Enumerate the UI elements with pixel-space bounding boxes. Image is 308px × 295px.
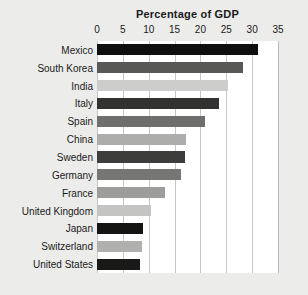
y-tick-label-india: India bbox=[71, 80, 93, 91]
y-tick-label-united-states: United States bbox=[33, 259, 93, 270]
bar-germany bbox=[97, 169, 181, 180]
y-tick-label-japan: Japan bbox=[66, 223, 93, 234]
y-tick-label-south-korea: South Korea bbox=[37, 62, 93, 73]
bar-row bbox=[97, 98, 278, 109]
y-tick-label-france: France bbox=[62, 187, 93, 198]
bar-row bbox=[97, 80, 278, 91]
bar-row bbox=[97, 223, 278, 234]
y-tick-label-germany: Germany bbox=[52, 169, 93, 180]
bar-india bbox=[97, 80, 228, 91]
bar-row bbox=[97, 241, 278, 252]
x-tick-label-20: 20 bbox=[195, 24, 206, 35]
y-tick-label-spain: Spain bbox=[67, 116, 93, 127]
bar-switzerland bbox=[97, 241, 142, 252]
bar-united-states bbox=[97, 259, 140, 270]
bar-row bbox=[97, 187, 278, 198]
y-tick-label-china: China bbox=[67, 134, 93, 145]
x-tick-label-10: 10 bbox=[143, 24, 154, 35]
bar-china bbox=[97, 134, 186, 145]
chart-title: Percentage of GDP bbox=[97, 8, 278, 20]
bars-group bbox=[97, 41, 278, 273]
y-tick-label-united-kingdom: United Kingdom bbox=[22, 205, 93, 216]
bar-spain bbox=[97, 116, 205, 127]
bar-italy bbox=[97, 98, 219, 109]
y-tick-label-italy: Italy bbox=[75, 98, 93, 109]
x-tick-label-30: 30 bbox=[247, 24, 258, 35]
bar-row bbox=[97, 205, 278, 216]
bar-france bbox=[97, 187, 165, 198]
x-axis-tick-labels: 05101520253035 bbox=[97, 24, 278, 38]
y-tick-label-sweden: Sweden bbox=[57, 152, 93, 163]
bar-sweden bbox=[97, 151, 185, 162]
bar-united-kingdom bbox=[97, 205, 151, 216]
bar-row bbox=[97, 169, 278, 180]
bar-japan bbox=[97, 223, 143, 234]
bar-row bbox=[97, 151, 278, 162]
chart-figure: Percentage of GDP 05101520253035 MexicoS… bbox=[0, 0, 308, 295]
y-axis-category-labels: MexicoSouth KoreaIndiaItalySpainChinaSwe… bbox=[0, 41, 93, 273]
plot-area bbox=[97, 41, 279, 273]
x-tick-label-0: 0 bbox=[94, 24, 100, 35]
x-tick-label-35: 35 bbox=[272, 24, 283, 35]
bar-row bbox=[97, 44, 278, 55]
bar-row bbox=[97, 116, 278, 127]
bar-row bbox=[97, 62, 278, 73]
bar-mexico bbox=[97, 44, 258, 55]
bar-row bbox=[97, 259, 278, 270]
x-tick-label-25: 25 bbox=[221, 24, 232, 35]
x-tick-label-15: 15 bbox=[169, 24, 180, 35]
y-tick-label-mexico: Mexico bbox=[61, 44, 93, 55]
x-tick-label-5: 5 bbox=[120, 24, 126, 35]
y-tick-label-switzerland: Switzerland bbox=[41, 241, 93, 252]
bar-row bbox=[97, 134, 278, 145]
bar-south-korea bbox=[97, 62, 243, 73]
